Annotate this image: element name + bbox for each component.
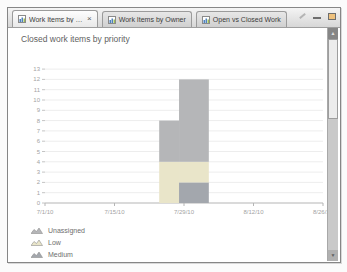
y-tick-label: 9 (37, 107, 41, 113)
y-tick-label: 10 (33, 97, 40, 103)
x-tick-label: 8/12/10 (243, 209, 264, 215)
y-tick-label: 13 (33, 66, 40, 72)
chart-icon (108, 16, 116, 24)
chart-icon (18, 15, 26, 23)
tab-work-items-by-owner[interactable]: Work Items by Owner (102, 11, 192, 27)
y-tick-label: 7 (37, 128, 41, 134)
legend-label: Unassigned (48, 227, 85, 234)
legend-label: Low (48, 239, 61, 246)
chart-legend: UnassignedLowMedium (31, 226, 85, 258)
maximize-icon[interactable] (328, 13, 336, 20)
area-segment-low (159, 162, 179, 203)
x-tick-label: 7/15/10 (104, 209, 125, 215)
screen: Work Items by Priority × Work Items by O… (0, 0, 347, 272)
area-series-icon (31, 239, 43, 246)
tab-bar: Work Items by Priority × Work Items by O… (8, 8, 340, 28)
area-series-icon (31, 227, 43, 234)
area-series-icon (31, 251, 43, 258)
x-tick-label: 7/1/10 (37, 209, 54, 215)
tab-label: Work Items by Owner (119, 16, 186, 23)
x-tick-label: 7/29/10 (174, 209, 195, 215)
edit-icon[interactable] (298, 12, 306, 20)
dashboard-view-window: Work Items by Priority × Work Items by O… (7, 7, 341, 263)
scroll-down-icon[interactable]: ▼ (328, 250, 338, 261)
scroll-up-icon[interactable]: ▲ (328, 28, 338, 39)
legend-item-medium: Medium (31, 250, 85, 258)
legend-label: Medium (48, 251, 73, 258)
y-tick-label: 4 (37, 159, 41, 165)
close-tab-icon[interactable]: × (87, 15, 92, 23)
y-tick-label: 6 (37, 138, 41, 144)
y-tick-label: 11 (34, 87, 41, 93)
view-toolbar (298, 12, 336, 20)
tab-label: Work Items by Priority (29, 16, 83, 23)
vertical-scrollbar[interactable]: ▲ ▼ (327, 28, 338, 261)
area-segment-unassigned (159, 121, 179, 162)
y-tick-label: 1 (37, 190, 41, 196)
minimize-icon[interactable] (313, 17, 321, 19)
y-tick-label: 3 (37, 169, 41, 175)
y-tick-label: 5 (37, 149, 41, 155)
legend-item-unassigned: Unassigned (31, 226, 85, 234)
scrollbar-thumb[interactable] (328, 39, 338, 119)
y-tick-label: 2 (37, 179, 41, 185)
chart-panel: Closed work items by priority 0123456789… (8, 28, 338, 261)
y-tick-label: 12 (33, 76, 40, 82)
tab-open-vs-closed-work[interactable]: Open vs Closed Work (196, 11, 287, 27)
tab-work-items-by-priority[interactable]: Work Items by Priority × (12, 10, 98, 27)
y-tick-label: 8 (37, 118, 41, 124)
area-segment-unassigned (179, 79, 209, 161)
area-segment-medium (179, 182, 209, 203)
area-segment-low (179, 162, 209, 183)
legend-item-low: Low (31, 238, 85, 246)
chart-icon (202, 16, 210, 24)
y-tick-label: 0 (37, 200, 41, 206)
tab-label: Open vs Closed Work (213, 16, 281, 23)
